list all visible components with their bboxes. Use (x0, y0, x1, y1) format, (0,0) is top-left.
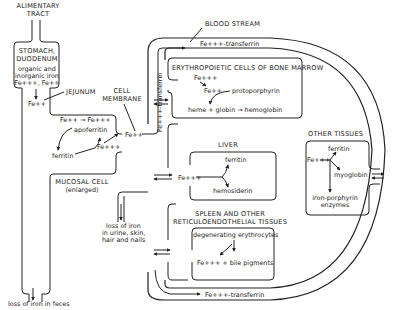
other-myoglobin: myoglobin (334, 171, 368, 179)
jejunum-fe: Fe++ (28, 100, 46, 108)
bone-marrow-reaction: heme + globin → hemoglobin (188, 106, 282, 114)
liver-hemosiderin: hemosiderin (213, 187, 253, 195)
other-tissues-label: OTHER TISSUES (308, 130, 363, 138)
mucosal-label-2: (enlarged) (65, 186, 98, 194)
mucosal-ferritin: ferritin (52, 152, 73, 160)
alimentary-label-1: ALIMENTARY (16, 2, 60, 10)
liver-ferritin: ferritin (225, 156, 246, 164)
mucosal-fe3: Fe+++ (97, 143, 120, 151)
bone-marrow-fe3: Fe+++ (194, 74, 217, 82)
jejunum-label: JEJUNUM (65, 88, 96, 96)
stomach-label-2: DUODENUM (16, 55, 57, 63)
blood-stream-label: BLOOD STREAM (205, 20, 260, 28)
cell-membrane-label-2: MEMBRANE (102, 95, 142, 103)
bone-marrow-label: ERYTHROPOIETIC CELLS OF BONE MARROW (172, 64, 324, 72)
alimentary-label-2: TRACT (26, 10, 50, 18)
blood-top-transferrin: Fe+++-transferrin (200, 40, 259, 48)
mucosal-apoferritin: apoferritin (74, 126, 107, 134)
loss-other-3: hair and nails (102, 236, 146, 244)
cell-membrane-label-1: CELL (114, 87, 131, 95)
spleen-products: Fe+++ + bile pigments (197, 259, 274, 267)
mucosal-conversion: Fe++ → Fe+++ (60, 116, 111, 124)
liver-fe: Fe+++ (178, 174, 201, 182)
mucosal-label-1: MUCOSAL CELL (55, 178, 109, 186)
other-enzymes-2: enzymes (321, 201, 350, 209)
bone-marrow-protoporphyrin: protoporphyrin (232, 87, 280, 95)
spleen-label-1: SPLEEN AND OTHER (195, 210, 265, 218)
spleen-label-2: RETICULOENDOTHELIAL TISSUES (173, 218, 287, 226)
blood-bottom-transferrin: Fe+++-transferrin (205, 291, 264, 299)
iron-metabolism-diagram: ALIMENTARY TRACT STOMACH, DUODENUM organ… (0, 0, 398, 310)
other-ferritin: ferritin (328, 145, 349, 153)
cell-membrane-fe: Fe++ (125, 131, 143, 139)
spleen-degenerating: degenerating erythrocytes (193, 231, 279, 239)
bone-marrow-fe2: Fe++ (204, 87, 222, 95)
stomach-label-1: STOMACH, (19, 47, 56, 55)
blood-vertical-transferrin: Fe+++-transferrin (156, 73, 164, 132)
liver-label: LIVER (218, 141, 238, 149)
stomach-text-3: Fe+++, Fe++ (14, 79, 59, 87)
loss-feces: loss of iron in feces (8, 300, 70, 308)
